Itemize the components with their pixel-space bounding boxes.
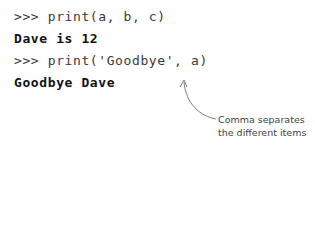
annotation-line: Comma separates [218, 113, 306, 126]
annotation-label: Comma separates the different items [218, 113, 306, 139]
annotation-line: the different items [218, 126, 306, 139]
